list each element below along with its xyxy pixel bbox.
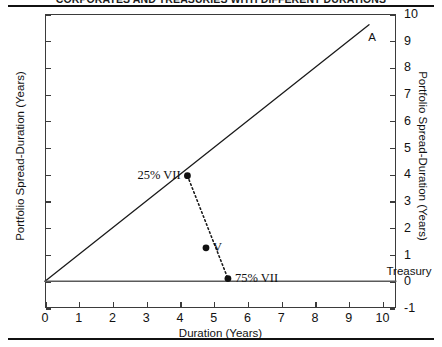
y-tick-right	[390, 95, 395, 96]
y-tick-label-right: 6	[404, 115, 411, 128]
y-axis-title-left: Portfolio Spread-Duration (Years)	[14, 56, 26, 256]
y-tick-label-right: 2	[404, 222, 411, 235]
y-tick-label-right: 5	[404, 142, 411, 155]
y-tick-label-right: 0	[404, 275, 411, 288]
y-tick-right	[390, 14, 395, 15]
y-tick-left	[46, 228, 51, 229]
y-tick-left	[46, 148, 51, 149]
x-tick	[180, 302, 181, 307]
y-tick-label-right: 10	[404, 8, 418, 21]
x-tick-label: 8	[300, 312, 330, 325]
y-axis-title-right: Portfolio Spread-Duration (Years)	[417, 56, 429, 256]
y-tick-label-right: 8	[404, 61, 411, 74]
y-tick-left	[46, 95, 51, 96]
y-tick-right	[390, 148, 395, 149]
x-tick-label: 2	[98, 312, 128, 325]
x-tick	[282, 302, 283, 307]
x-tick	[147, 302, 148, 307]
x-tick-label: 4	[165, 312, 195, 325]
y-tick-label-right: 4	[404, 168, 411, 181]
x-tick	[45, 302, 46, 307]
y-tick-label-right: 1	[404, 249, 411, 262]
y-tick-label-right: 7	[404, 88, 411, 101]
x-tick	[383, 302, 384, 307]
y-tick-right	[390, 228, 395, 229]
y-tick-left	[46, 121, 51, 122]
y-tick-right	[390, 308, 395, 309]
y-tick-right	[390, 255, 395, 256]
x-tick-label: 10	[368, 312, 398, 325]
y-tick-label-right: -1	[404, 302, 415, 315]
title-top-rule	[8, 5, 434, 7]
chart-title: CORPORATES AND TREASURIES WITH DIFFERENT…	[0, 0, 442, 5]
y-tick-right	[390, 282, 395, 283]
footer-rule	[8, 338, 434, 340]
chart-figure: CORPORATES AND TREASURIES WITH DIFFERENT…	[0, 0, 442, 347]
annotation-label: A	[368, 32, 376, 44]
x-tick-label: 6	[233, 312, 263, 325]
point-label: V	[213, 241, 222, 254]
y-tick-right	[390, 121, 395, 122]
point-label: 25% VII	[137, 169, 180, 182]
x-tick-label: 9	[334, 312, 364, 325]
y-tick-right	[390, 41, 395, 42]
y-tick-label-right: 3	[404, 195, 411, 208]
y-tick-left	[46, 255, 51, 256]
y-tick-right	[390, 175, 395, 176]
y-tick-left	[46, 282, 51, 283]
plot-area	[45, 14, 396, 308]
x-tick	[79, 302, 80, 307]
y-tick-left	[46, 41, 51, 42]
x-tick	[315, 302, 316, 307]
point-label: 75% VII	[235, 272, 278, 285]
x-tick-label: 1	[64, 312, 94, 325]
y-tick-right	[390, 201, 395, 202]
x-tick-label: 0	[30, 312, 60, 325]
y-tick-label-right: 9	[404, 35, 411, 48]
x-tick	[214, 302, 215, 307]
x-tick	[349, 302, 350, 307]
y-tick-left	[46, 175, 51, 176]
x-tick	[113, 302, 114, 307]
y-tick-left	[46, 68, 51, 69]
x-tick-label: 7	[266, 312, 296, 325]
x-tick-label: 5	[199, 312, 229, 325]
y-tick-left	[46, 308, 51, 309]
x-tick-label: 3	[131, 312, 161, 325]
x-tick	[248, 302, 249, 307]
y-tick-left	[46, 14, 51, 15]
y-tick-left	[46, 201, 51, 202]
y-tick-right	[390, 68, 395, 69]
